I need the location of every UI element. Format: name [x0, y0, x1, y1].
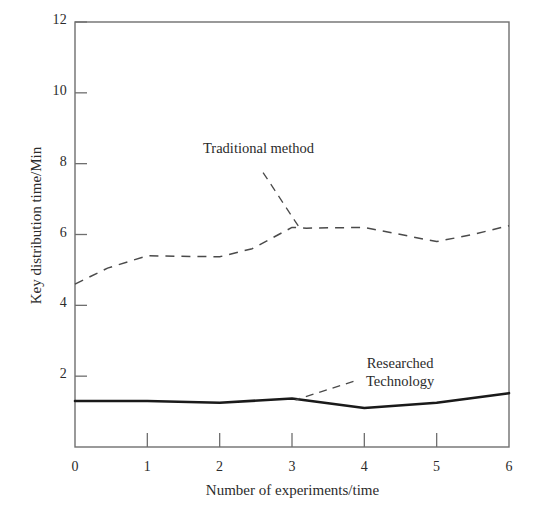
annotation-traditional-method: Traditional method — [203, 140, 314, 158]
plot-frame — [75, 22, 509, 447]
annotation-researched-technology-line1: Researched — [366, 355, 434, 373]
annotation-traditional-method-text: Traditional method — [203, 140, 314, 158]
x-axis-tick-label: 6 — [484, 459, 534, 475]
y-axis-tick-label: 2 — [23, 366, 67, 382]
x-axis-ticks — [147, 433, 436, 447]
x-axis-tick-label: 0 — [50, 459, 100, 475]
y-axis-title: Key distribution time/Min — [28, 116, 45, 336]
leader-line-traditional-method — [263, 173, 299, 228]
y-axis-tick-label: 10 — [23, 83, 67, 99]
leader-line-researched-technology — [296, 381, 354, 399]
annotation-researched-technology: Researched Technology — [366, 355, 434, 390]
y-axis-ticks — [75, 22, 87, 376]
x-axis-tick-label: 1 — [122, 459, 172, 475]
y-axis-tick-label: 12 — [23, 12, 67, 28]
x-axis-tick-label: 3 — [267, 459, 317, 475]
series-line-researched-technology — [75, 393, 509, 408]
series-line-traditional-method — [75, 226, 509, 284]
x-axis-tick-label: 5 — [412, 459, 462, 475]
plot-canvas — [0, 0, 538, 520]
x-axis-tick-label: 4 — [339, 459, 389, 475]
x-axis-title: Number of experiments/time — [75, 482, 510, 499]
chart-figure: 24681012 0123456 Key distribution time/M… — [0, 0, 538, 520]
x-axis-tick-label: 2 — [195, 459, 245, 475]
annotation-researched-technology-line2: Technology — [366, 373, 434, 391]
